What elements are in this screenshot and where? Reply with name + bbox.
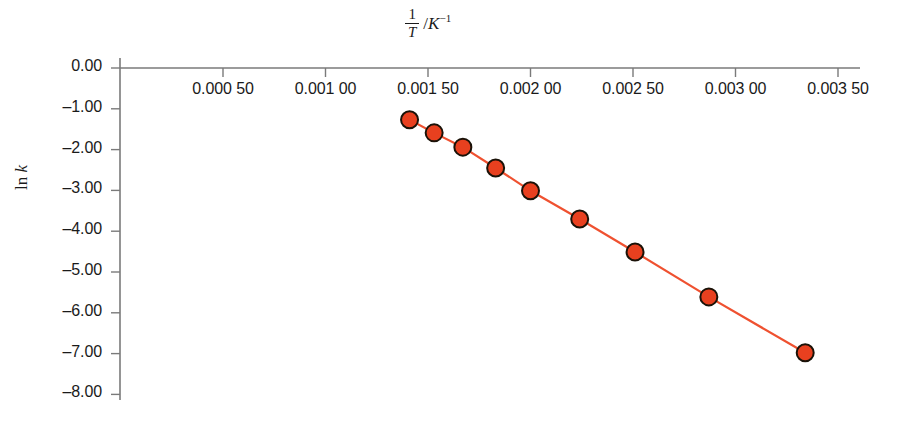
x-axis-tick-label: 0.002 50 [578,80,688,98]
y-axis-tick-label: 0.00 [42,57,102,75]
x-axis-tick-label: 0.002 00 [476,80,586,98]
series-line [410,120,806,353]
x-axis-ticks [223,68,838,77]
x-axis-tick-label: 0.003 50 [783,80,893,98]
data-point-marker [627,244,644,261]
data-point-marker [426,124,443,141]
arrhenius-plot-figure: 1 T /K−1 ln k 0.000 500.001 000.001 500.… [0,0,897,430]
y-axis-tick-label: –8.00 [42,383,102,401]
data-point-marker [401,111,418,128]
plot-area [0,0,897,430]
y-axis-ticks [111,68,120,394]
y-axis-tick-label: –2.00 [42,139,102,157]
data-point-marker [797,344,814,361]
data-point-marker [487,159,504,176]
y-axis-tick-label: –3.00 [42,179,102,197]
x-axis-tick-label: 0.000 50 [168,80,278,98]
y-axis-tick-label: –7.00 [42,343,102,361]
y-axis-tick-label: –5.00 [42,261,102,279]
x-axis-tick-label: 0.003 00 [681,80,791,98]
y-axis-tick-label: –6.00 [42,302,102,320]
data-point-marker [522,182,539,199]
x-axis-tick-label: 0.001 00 [271,80,381,98]
y-axis-tick-label: –4.00 [42,220,102,238]
y-axis-tick-label: –1.00 [42,98,102,116]
data-point-marker [571,210,588,227]
data-point-marker [700,288,717,305]
x-axis-tick-label: 0.001 50 [373,80,483,98]
axis-lines [120,58,860,400]
data-point-marker [454,139,471,156]
